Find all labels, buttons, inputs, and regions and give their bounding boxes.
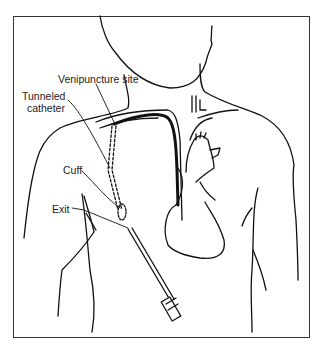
- left-armpit: [86, 213, 96, 230]
- cuff: [118, 204, 126, 220]
- chest-illustration: [0, 0, 327, 358]
- heart: [165, 132, 224, 258]
- label-tunneled-line2: catheter: [27, 102, 65, 114]
- catheter-intravascular: [114, 115, 178, 205]
- label-tunneled-line1: Tunneled: [22, 90, 65, 102]
- label-venipuncture-site: Venipuncture site: [58, 73, 139, 85]
- subclavian-veins: [96, 96, 238, 220]
- label-cuff: Cuff: [63, 164, 82, 176]
- right-arm-crease: [253, 250, 266, 290]
- right-armpit: [242, 208, 252, 226]
- label-exit: Exit: [52, 203, 70, 215]
- catheter-external: [128, 228, 181, 321]
- left-torso-line: [82, 194, 94, 332]
- neck-right-shoulder: [200, 64, 298, 280]
